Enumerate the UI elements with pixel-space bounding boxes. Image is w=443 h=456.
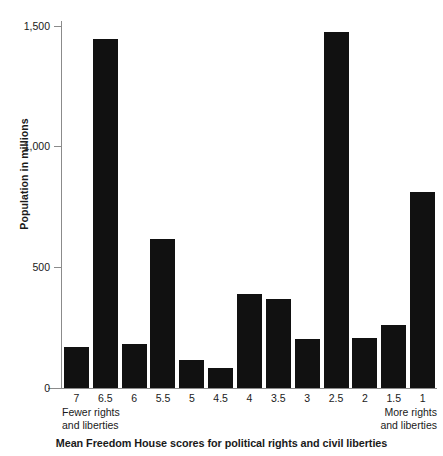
bar-chart: Population in millions 05001,0001,500 76… — [0, 0, 443, 456]
bar — [352, 338, 377, 388]
left-anchor-caption: Fewer rights and liberties — [62, 406, 120, 431]
bar-series — [0, 0, 443, 456]
bar — [410, 192, 435, 388]
bar — [266, 299, 291, 388]
x-axis-title: Mean Freedom House scores for political … — [0, 437, 443, 449]
bar — [179, 360, 204, 388]
right-anchor-line1: More rights — [380, 406, 437, 419]
bar — [295, 339, 320, 388]
bar — [122, 344, 147, 388]
bar — [381, 325, 406, 388]
right-anchor-caption: More rights and liberties — [380, 406, 437, 431]
bar — [93, 39, 118, 388]
right-anchor-line2: and liberties — [380, 419, 437, 432]
left-anchor-line2: and liberties — [62, 419, 120, 432]
left-anchor-line1: Fewer rights — [62, 406, 120, 419]
x-axis-tick-label: 1 — [403, 392, 443, 404]
bar — [324, 32, 349, 388]
bar — [208, 368, 233, 388]
bar — [150, 239, 175, 388]
bar — [64, 347, 89, 388]
bar — [237, 294, 262, 388]
